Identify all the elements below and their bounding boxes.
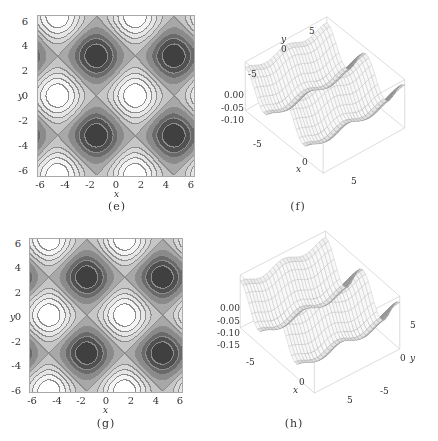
z-tick: 0.00 [210, 91, 244, 100]
y-tick: -6 [10, 166, 28, 176]
x-axis-label: x [114, 189, 119, 199]
y-tick: 5 [410, 321, 416, 330]
caption-h: (h) [274, 417, 314, 430]
x-tick: 0 [302, 158, 308, 167]
x-tick: -5 [253, 140, 262, 149]
z-tick: -0.10 [206, 329, 240, 338]
caption-e: (e) [97, 200, 137, 213]
x-axis-label: x [296, 165, 301, 174]
x-tick: -2 [80, 180, 100, 190]
x-tick: 6 [181, 180, 201, 190]
y-axis-label: y [10, 312, 15, 322]
y-tick: 0 [400, 354, 406, 363]
y-tick: -2 [3, 337, 21, 347]
y-tick: 2 [3, 288, 21, 298]
x-tick: -4 [55, 180, 75, 190]
x-tick: 2 [131, 180, 151, 190]
y-tick: -5 [248, 70, 257, 79]
y-tick: 6 [3, 239, 21, 249]
x-tick: 5 [347, 396, 353, 405]
z-tick: -0.05 [206, 317, 240, 326]
y-axis-label: y [18, 91, 23, 101]
caption-g: (g) [86, 417, 126, 430]
panel-g-contour: 6 4 2 0 -2 -4 -6 y -6 -4 -2 0 2 4 6 x (g… [0, 220, 220, 441]
y-tick: 4 [3, 263, 21, 273]
y-tick: -5 [380, 387, 389, 396]
x-tick: 4 [146, 396, 166, 406]
x-axis-label: x [293, 386, 298, 395]
z-tick: -0.10 [210, 116, 244, 125]
x-tick: -6 [22, 396, 42, 406]
contour-plot-e [37, 15, 195, 177]
caption-f: (f) [278, 200, 318, 213]
panel-f-surface: 5 y 0 -5 0.00 -0.05 -0.10 -5 0 x 5 (f) [220, 0, 438, 220]
x-tick: 2 [121, 396, 141, 406]
x-tick: 5 [351, 177, 357, 186]
z-tick: -0.15 [206, 341, 240, 350]
y-tick: 2 [10, 66, 28, 76]
y-tick: -4 [10, 141, 28, 151]
y-axis-label: y [410, 354, 415, 363]
contour-plot-g [29, 238, 183, 393]
y-tick: -2 [10, 116, 28, 126]
z-tick: 0.00 [206, 304, 240, 313]
x-tick: -4 [47, 396, 67, 406]
x-tick: -2 [71, 396, 91, 406]
y-tick: -6 [3, 386, 21, 396]
panel-e-contour: 6 4 2 0 -2 -4 -6 y -6 -4 -2 0 2 4 6 x (e… [0, 0, 220, 220]
y-axis-label: y [281, 35, 286, 44]
x-tick: -5 [246, 358, 255, 367]
x-tick: 4 [156, 180, 176, 190]
surface-plot-f [220, 0, 438, 220]
y-tick: 6 [10, 17, 28, 27]
x-axis-label: x [103, 405, 108, 415]
surface-plot-h [220, 220, 438, 441]
y-tick: 0 [281, 45, 287, 54]
x-tick: 6 [170, 396, 190, 406]
y-tick: -4 [3, 361, 21, 371]
z-tick: -0.05 [210, 104, 244, 113]
panel-h-surface: 0.00 -0.05 -0.10 -0.15 -5 0 x 5 5 0 y -5… [220, 220, 438, 441]
y-tick: 5 [309, 27, 315, 36]
x-tick: 0 [299, 378, 305, 387]
y-tick: 4 [10, 41, 28, 51]
x-tick: -6 [30, 180, 50, 190]
